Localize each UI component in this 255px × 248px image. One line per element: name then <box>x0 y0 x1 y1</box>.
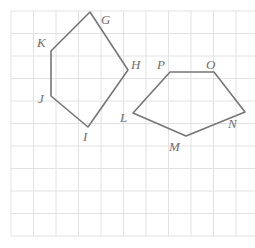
figure-canvas: GHIJKLMNOP <box>0 0 255 248</box>
vertex-label-p: P <box>157 58 165 71</box>
vertex-label-h: H <box>131 58 140 71</box>
vertex-label-g: G <box>101 13 110 26</box>
vertex-label-i: I <box>83 130 87 143</box>
vertex-label-n: N <box>228 117 237 130</box>
vertex-label-l: L <box>120 111 127 124</box>
vertex-label-j: J <box>38 92 44 105</box>
vertex-label-k: K <box>37 36 46 49</box>
vertex-label-o: O <box>206 58 215 71</box>
vertex-label-m: M <box>169 140 180 153</box>
